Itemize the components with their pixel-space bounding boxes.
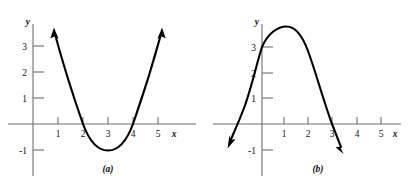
panel-a-x-axis-label: x <box>171 129 177 139</box>
panel-b-x-tick-label-5: 5 <box>379 129 384 139</box>
panel-a-y-tick-label-3: 3 <box>22 42 27 52</box>
panel-b-x-tick-label-1: 1 <box>282 129 287 139</box>
panel-b-caption: (b) <box>312 164 323 175</box>
panel-b-y-tick-label-n1: -1 <box>248 146 256 156</box>
panel-a-left-arrowhead <box>50 28 58 40</box>
panel-a-y-tick-label-2: 2 <box>22 68 27 78</box>
panel-a-y-tick-label-n1: -1 <box>19 146 27 156</box>
panel-a-right-arrowhead <box>157 28 165 40</box>
panel-b-y-tick-label-3: 3 <box>251 43 256 53</box>
panel-a-y-axis-label: y <box>25 17 31 27</box>
figure-container: 1 2 3 4 5 3 2 1 -1 y x (a) <box>0 0 410 188</box>
panel-a-y-tick-label-1: 1 <box>22 94 27 104</box>
panel-b-y-tick-label-1: 1 <box>251 94 256 104</box>
panel-b-x-tick-label-2: 2 <box>306 129 311 139</box>
panel-a-x-tick-label-1: 1 <box>56 129 61 139</box>
panel-b-x-axis-label: x <box>392 129 398 139</box>
panel-b-chart: 1 2 3 4 5 3 2 1 -1 y x (b) <box>205 0 410 188</box>
panel-a-x-tick-label-5: 5 <box>156 129 161 139</box>
panel-b-y-axis-label: y <box>254 17 260 27</box>
panel-b-x-tick-label-4: 4 <box>355 129 360 139</box>
panel-a-x-tick-label-3: 3 <box>106 129 111 139</box>
panel-a-chart: 1 2 3 4 5 3 2 1 -1 y x (a) <box>0 0 205 188</box>
panel-a-caption: (a) <box>102 164 113 175</box>
